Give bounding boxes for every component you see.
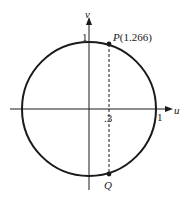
point-q-label: Q [104,179,112,191]
radius-label-top: 1 [82,31,88,43]
tick-label-0-3: .3 [104,112,113,124]
diagram-canvas: v u 1 1 .3 P(1.266) Q [0,0,191,197]
point-p-label: P(1.266) [112,31,152,44]
u-axis-label: u [174,104,180,116]
v-axis-label: v [85,8,90,20]
radius-label-right: 1 [157,111,163,123]
point-q-dot [107,172,112,177]
unit-circle-diagram: v u 1 1 .3 P(1.266) Q [0,0,191,197]
point-p-coords: (1.266) [120,31,152,44]
u-axis-arrow-icon [165,106,173,112]
point-p-dot [107,42,112,47]
